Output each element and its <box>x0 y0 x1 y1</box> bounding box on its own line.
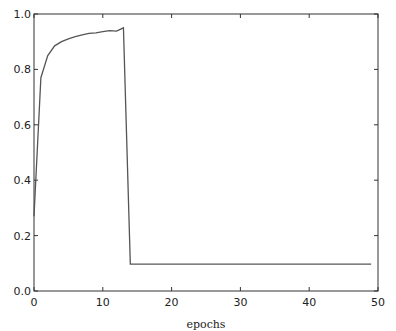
x-tick-label: 20 <box>165 296 179 309</box>
line-chart: 0.00.20.40.60.81.0 01020304050 epochs <box>0 0 396 331</box>
x-tick-label: 0 <box>31 296 38 309</box>
x-tick-label: 50 <box>371 296 385 309</box>
y-tick-label: 0.4 <box>14 174 32 187</box>
x-tick-label: 40 <box>302 296 316 309</box>
y-tick-label: 0.6 <box>14 119 32 132</box>
y-tick-label: 0.8 <box>14 63 32 76</box>
x-axis-label: epochs <box>186 318 225 331</box>
x-tick-label: 10 <box>96 296 110 309</box>
x-tick-label: 30 <box>233 296 247 309</box>
y-tick-label: 1.0 <box>14 8 32 21</box>
y-tick-label: 0.2 <box>14 230 32 243</box>
y-tick-label: 0.0 <box>14 285 32 298</box>
plot-area <box>34 14 378 291</box>
